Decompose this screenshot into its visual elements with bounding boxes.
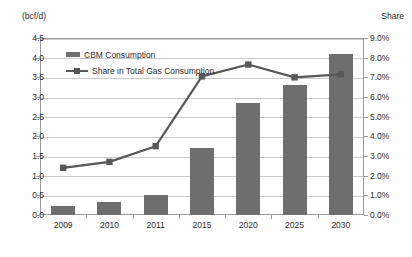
legend-item-cbm-consumption: CBM Consumption (66, 48, 214, 61)
x-tick-label: 2009 (54, 220, 73, 230)
line-marker (106, 159, 112, 165)
legend-item-share-in-total-gas-consumption: Share in Total Gas Consumption (66, 64, 214, 77)
y-tick-mark (364, 176, 368, 177)
x-tick-label: 2010 (100, 220, 119, 230)
secondary-y-tick-label: 0.0% (370, 210, 410, 220)
y-tick-mark (364, 156, 368, 157)
secondary-y-tick-label: 9.0% (370, 33, 410, 43)
legend-label-cbm-consumption: CBM Consumption (84, 50, 155, 60)
chart-legend: CBM Consumption Share in Total Gas Consu… (66, 48, 214, 80)
line-marker (338, 71, 344, 77)
x-tick-label: 2011 (147, 220, 165, 230)
line-marker (245, 61, 251, 67)
line-marker (60, 165, 66, 171)
y-tick-mark (364, 58, 368, 59)
y-tick-mark (364, 215, 368, 216)
y-tick-mark (364, 117, 368, 118)
primary-axis-title: (bcf/d) (22, 11, 46, 21)
line-marker-swatch-icon (66, 66, 88, 75)
y-tick-mark (36, 215, 40, 216)
y-tick-mark (364, 38, 368, 39)
secondary-y-tick-label: 5.0% (370, 112, 410, 122)
x-tick-mark (271, 215, 272, 219)
bar-swatch-icon (66, 52, 80, 57)
chart-container: (bcf/d) Share 0.00.51.01.52.02.53.03.54.… (0, 0, 412, 257)
legend-label-share-in-total-gas-consumption: Share in Total Gas Consumption (92, 66, 214, 76)
y-tick-mark (364, 195, 368, 196)
x-tick-mark (179, 215, 180, 219)
x-tick-label: 2015 (193, 220, 212, 230)
secondary-y-tick-label: 8.0% (370, 53, 410, 63)
x-tick-label: 2020 (239, 220, 258, 230)
secondary-y-tick-label: 2.0% (370, 171, 410, 181)
x-tick-mark (225, 215, 226, 219)
x-tick-mark (86, 215, 87, 219)
x-tick-mark (133, 215, 134, 219)
y-tick-mark (364, 136, 368, 137)
line-marker (153, 143, 159, 149)
secondary-y-tick-label: 3.0% (370, 151, 410, 161)
secondary-y-tick-label: 1.0% (370, 190, 410, 200)
secondary-y-tick-label: 4.0% (370, 131, 410, 141)
x-tick-label: 2030 (331, 220, 350, 230)
line-marker (291, 74, 297, 80)
secondary-y-tick-label: 6.0% (370, 92, 410, 102)
x-tick-mark (318, 215, 319, 219)
secondary-y-tick-label: 7.0% (370, 72, 410, 82)
x-tick-label: 2025 (285, 220, 304, 230)
secondary-axis-title: Share (381, 11, 404, 21)
y-tick-mark (364, 77, 368, 78)
y-tick-mark (364, 97, 368, 98)
